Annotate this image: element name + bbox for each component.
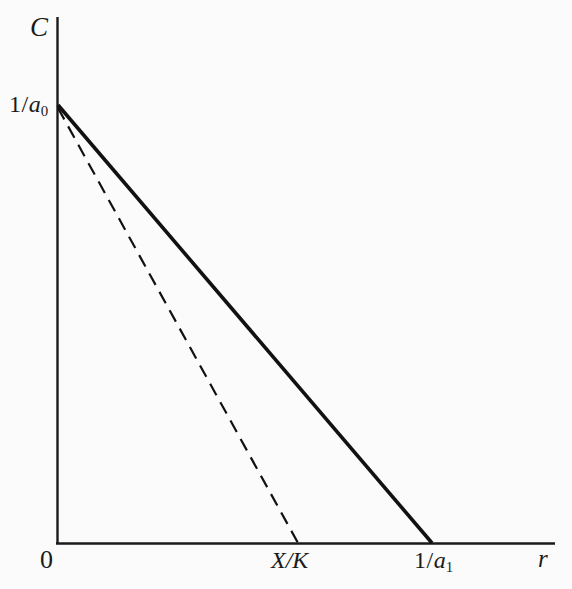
dashed-cost-line [58, 108, 298, 543]
plot-canvas [0, 0, 572, 589]
y-intercept-numerator: 1 [9, 91, 21, 117]
x-intercept-slash: / [426, 547, 434, 573]
x-intercept-numerator: 1 [414, 547, 426, 573]
y-intercept-variable: a [29, 91, 41, 117]
x-intercept-variable: a [434, 547, 446, 573]
y-intercept-slash: / [21, 91, 29, 117]
x-axis-label: r [538, 546, 548, 571]
y-intercept-label: 1/a0 [9, 92, 48, 119]
solid-cost-line [58, 105, 432, 543]
y-axis-label: C [30, 14, 48, 41]
x-intercept-solid-label: 1/a1 [414, 548, 453, 575]
y-intercept-subscript: 0 [41, 103, 48, 119]
figure-container: C r 0 1/a0 X/K 1/a1 [0, 0, 572, 589]
x-intercept-dashed-label: X/K [271, 548, 308, 572]
x-intercept-subscript: 1 [446, 559, 453, 575]
origin-label: 0 [40, 547, 53, 573]
